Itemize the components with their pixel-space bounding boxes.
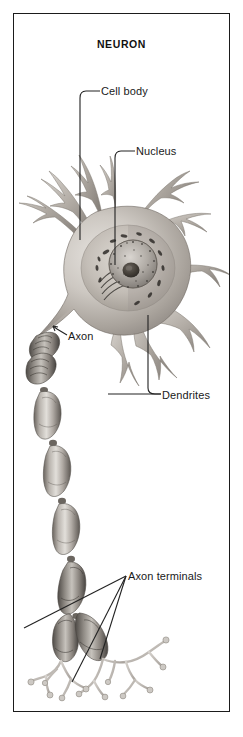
nucleus	[109, 240, 157, 288]
label-cell-body: Cell body	[101, 85, 148, 97]
leader-terminal-ray-3	[100, 576, 126, 659]
label-axon: Axon	[68, 330, 93, 342]
myelin-segment	[52, 614, 78, 662]
figure-title: NEURON	[0, 38, 243, 50]
myelin-segment	[58, 562, 86, 614]
myelin-segment	[52, 503, 79, 554]
label-axon-terminals: Axon terminals	[128, 570, 202, 582]
axon-myelin-group	[26, 332, 108, 661]
figure-root: NEURON Cell body Nucleus Axon Dendrites …	[0, 0, 243, 737]
neuron-illustration	[0, 0, 243, 737]
label-nucleus: Nucleus	[136, 145, 176, 157]
myelin-segment	[26, 353, 56, 384]
myelin-segment	[43, 445, 70, 496]
soma-cell-body	[36, 206, 191, 338]
label-dendrites: Dendrites	[162, 389, 210, 401]
myelin-segment	[34, 391, 61, 439]
